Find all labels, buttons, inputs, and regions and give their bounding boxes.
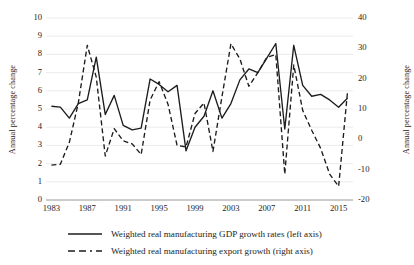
x-tick-2011: 2011 <box>283 203 323 213</box>
x-tick-2015: 2015 <box>319 203 359 213</box>
plot-svg <box>46 18 353 200</box>
legend-label-gdp: Weighted real manufacturing GDP growth r… <box>111 229 322 239</box>
x-tick-2003: 2003 <box>211 203 251 213</box>
plot-area <box>46 18 353 200</box>
x-tick-1995: 1995 <box>139 203 179 213</box>
series-line-1 <box>51 43 347 150</box>
x-tick-2007: 2007 <box>247 203 287 213</box>
x-tick-1983: 1983 <box>31 203 71 213</box>
legend-key-dashed-line <box>68 246 102 256</box>
chart-figure: Annual percentage change Annual percenta… <box>0 0 414 265</box>
legend-label-export: Weighted real manufacturing export growt… <box>111 246 313 256</box>
x-tick-1987: 1987 <box>67 203 107 213</box>
chart-legend: Weighted real manufacturing GDP growth r… <box>40 225 380 259</box>
x-tick-1999: 1999 <box>175 203 215 213</box>
x-tick-1991: 1991 <box>103 203 143 213</box>
series-line-2 <box>51 44 347 187</box>
legend-item-gdp: Weighted real manufacturing GDP growth r… <box>40 225 380 242</box>
legend-item-export: Weighted real manufacturing export growt… <box>40 242 380 259</box>
legend-key-solid-line <box>68 229 102 239</box>
